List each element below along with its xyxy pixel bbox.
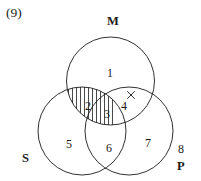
venn-diagram-figure: (9) MSP 12345678 bbox=[0, 0, 201, 181]
region-label-region-3: 3 bbox=[104, 108, 110, 120]
circle-p bbox=[85, 87, 173, 175]
region-label-region-4: 4 bbox=[121, 100, 127, 112]
region-label-region-6: 6 bbox=[106, 142, 112, 154]
item-number: (9) bbox=[6, 6, 22, 20]
x-mark bbox=[128, 92, 135, 99]
set-label-S: S bbox=[22, 152, 29, 165]
circle-s bbox=[38, 87, 126, 175]
region-label-region-7: 7 bbox=[145, 137, 151, 149]
region-label-region-2: 2 bbox=[85, 100, 91, 112]
region-label-region-1: 1 bbox=[107, 67, 113, 79]
venn-diagram-graphic bbox=[0, 0, 201, 181]
circle-m bbox=[67, 37, 155, 125]
set-label-P: P bbox=[177, 160, 185, 173]
region-label-region-5: 5 bbox=[66, 138, 72, 150]
region-label-region-8: 8 bbox=[178, 143, 184, 155]
set-label-M: M bbox=[107, 15, 119, 28]
